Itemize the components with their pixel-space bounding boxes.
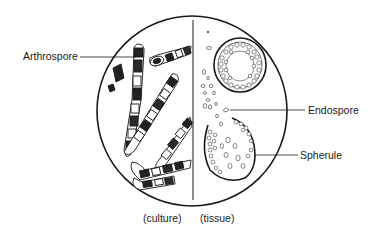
diagram: Arthrospore Endospore Spherule (culture)… xyxy=(0,0,373,232)
hyphae-group xyxy=(108,44,193,190)
endospore-label: Endospore xyxy=(308,104,359,116)
culture-caption: (culture) xyxy=(143,212,182,224)
arthrospore-fragment xyxy=(108,64,124,92)
tissue-caption: (tissue) xyxy=(200,212,234,224)
microscope-field xyxy=(97,16,287,206)
spherule-label: Spherule xyxy=(300,149,342,161)
spherule-ruptured xyxy=(204,118,254,180)
hypha-2 xyxy=(149,46,191,68)
arthrospore-label: Arthrospore xyxy=(23,50,78,62)
spherule-intact xyxy=(214,38,266,92)
microscope-field-illustration xyxy=(0,0,373,232)
